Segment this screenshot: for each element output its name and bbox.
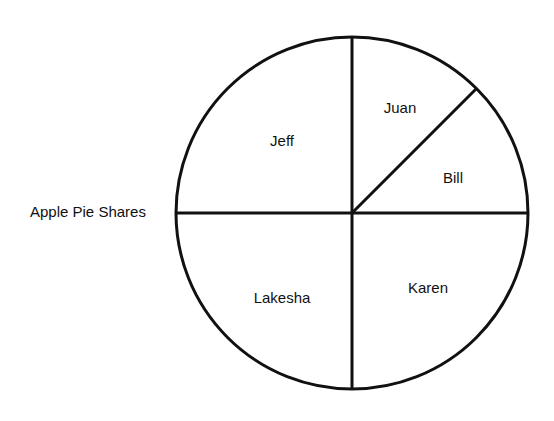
slice-label-jeff: Jeff [270, 132, 294, 149]
slice-label-lakesha: Lakesha [254, 289, 311, 306]
slice-label-karen: Karen [408, 279, 448, 296]
slice-label-juan: Juan [384, 99, 417, 116]
chart-title: Apple Pie Shares [30, 203, 146, 220]
slice-label-bill: Bill [443, 169, 463, 186]
